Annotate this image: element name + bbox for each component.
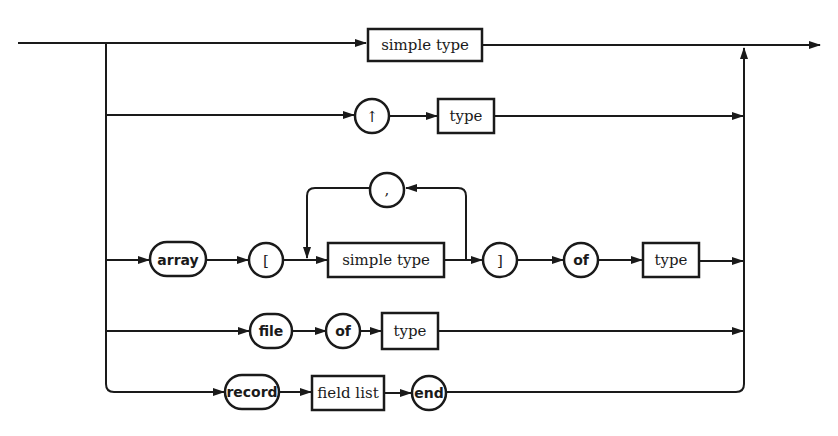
file-type-label: type [394,322,427,340]
array-of-label: of [573,252,590,268]
array-label: array [157,252,198,268]
row-array: array [ simple type , ] of type [106,173,743,277]
field-list-label: field list [317,384,378,402]
right-rail [736,48,744,392]
array-type-label: type [655,251,688,269]
close-bracket-label: ] [497,252,503,270]
open-bracket-label: [ [263,252,269,270]
pointer-label: ↑ [366,108,379,126]
file-of-label: of [335,323,352,339]
row-simple-type: simple type [368,29,482,61]
left-rail [106,43,114,392]
row-file: file of type [106,313,743,349]
record-label: record [226,384,277,400]
row-pointer: ↑ type [106,99,743,133]
end-label: end [414,385,443,401]
comma-label: , [385,181,390,199]
file-label: file [259,323,284,339]
type-label: type [450,107,483,125]
simple-type-label: simple type [381,36,469,54]
array-simple-type-label: simple type [342,251,430,269]
syntax-diagram: simple type ↑ type array [ simple type ,… [0,0,838,436]
row-record: record field list end [114,375,736,410]
